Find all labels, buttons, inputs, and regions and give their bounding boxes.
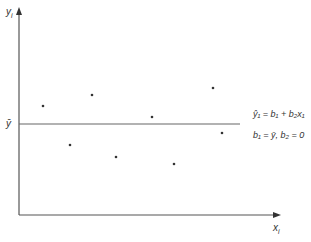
coefficient-note: b₁ = ȳ, b₂ = 0	[253, 131, 304, 140]
x-axis-label: xi	[273, 223, 280, 235]
data-point	[221, 132, 224, 135]
data-point	[91, 94, 94, 97]
x-axis-arrow-icon	[273, 212, 281, 218]
data-point	[42, 105, 45, 108]
data-points	[42, 87, 224, 166]
data-point	[69, 144, 72, 147]
regression-equation: ŷ₁ = b₁ + b₂x₁	[253, 110, 304, 119]
y-axis-label: yi	[6, 7, 13, 19]
data-point	[173, 163, 176, 166]
data-point	[212, 87, 215, 90]
y-axis-arrow-icon	[16, 7, 22, 15]
data-point	[115, 156, 118, 159]
data-point	[151, 116, 154, 119]
scatter-diagram	[0, 0, 311, 242]
y-mean-label: ȳ	[6, 119, 11, 129]
